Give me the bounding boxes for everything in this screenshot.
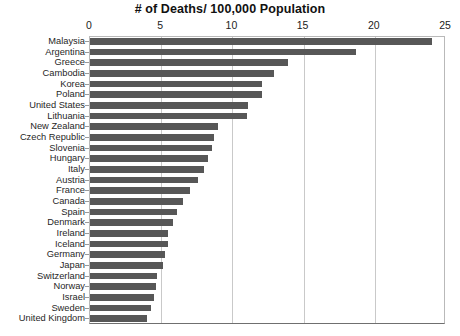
category-label-greece: Greece — [55, 57, 86, 68]
bar-row[interactable] — [90, 175, 198, 186]
bar-row[interactable] — [90, 239, 168, 250]
bar[interactable] — [90, 209, 177, 215]
category-label-france: France — [56, 185, 85, 196]
bar-row[interactable] — [90, 196, 183, 207]
category-tick-mark — [85, 244, 89, 245]
category-tick-mark — [85, 94, 89, 95]
category-tick-mark — [85, 286, 89, 287]
bar[interactable] — [90, 187, 190, 193]
category-tick-mark — [85, 308, 89, 309]
bar[interactable] — [90, 198, 183, 204]
bar-row[interactable] — [90, 292, 154, 303]
bar-row[interactable] — [90, 47, 356, 58]
category-label-ireland: Ireland — [57, 228, 85, 239]
bar[interactable] — [90, 59, 288, 65]
bar-row[interactable] — [90, 281, 156, 292]
bar[interactable] — [90, 315, 147, 321]
bar-row[interactable] — [90, 228, 168, 239]
bar-row[interactable] — [90, 249, 165, 260]
category-label-argentina: Argentina — [45, 47, 85, 58]
category-label-slovenia: Slovenia — [49, 143, 85, 154]
bar[interactable] — [90, 294, 154, 300]
category-tick-mark — [85, 233, 89, 234]
chart-title: # of Deaths/ 100,000 Population — [0, 2, 460, 16]
bar[interactable] — [90, 102, 248, 108]
category-tick-mark — [85, 158, 89, 159]
bar[interactable] — [90, 251, 165, 257]
bar[interactable] — [90, 177, 198, 183]
bar[interactable] — [90, 91, 262, 97]
bar-row[interactable] — [90, 185, 190, 196]
category-label-canada: Canada — [52, 196, 85, 207]
bar-row[interactable] — [90, 143, 212, 154]
bar-row[interactable] — [90, 100, 248, 111]
x-tick-label-10: 10 — [226, 19, 238, 31]
category-tick-mark — [85, 126, 89, 127]
category-label-switzerland: Switzerland — [37, 271, 85, 282]
bar-row[interactable] — [90, 164, 204, 175]
bar-row[interactable] — [90, 111, 247, 122]
category-tick-mark — [85, 201, 89, 202]
bar-row[interactable] — [90, 79, 262, 90]
bar-row[interactable] — [90, 89, 262, 100]
bar[interactable] — [90, 262, 163, 268]
category-tick-mark — [85, 116, 89, 117]
bar-row[interactable] — [90, 260, 163, 271]
category-tick-mark — [85, 297, 89, 298]
category-label-israel: Israel — [62, 292, 85, 303]
bar[interactable] — [90, 241, 168, 247]
bar[interactable] — [90, 283, 156, 289]
bar[interactable] — [90, 81, 262, 87]
category-tick-mark — [85, 41, 89, 42]
bar-row[interactable] — [90, 132, 214, 143]
category-tick-mark — [85, 169, 89, 170]
category-tick-mark — [85, 137, 89, 138]
category-tick-mark — [85, 148, 89, 149]
category-tick-mark — [85, 318, 89, 319]
category-label-sweden: Sweden — [51, 303, 85, 314]
bar-row[interactable] — [90, 68, 274, 79]
x-axis-tick-labels: 0510152025 — [0, 19, 460, 33]
x-tick-label-15: 15 — [297, 19, 309, 31]
bar[interactable] — [90, 166, 204, 172]
bar[interactable] — [90, 134, 214, 140]
bar-row[interactable] — [90, 207, 177, 218]
category-tick-mark — [85, 222, 89, 223]
category-tick-mark — [85, 254, 89, 255]
bar-row[interactable] — [90, 121, 218, 132]
category-label-united-kingdom: United Kingdom — [19, 313, 85, 324]
category-label-cambodia: Cambodia — [43, 68, 85, 79]
bar[interactable] — [90, 273, 157, 279]
bar[interactable] — [90, 123, 218, 129]
x-tick-label-5: 5 — [157, 19, 163, 31]
bar-row[interactable] — [90, 153, 208, 164]
bar[interactable] — [90, 70, 274, 76]
category-label-denmark: Denmark — [47, 217, 85, 228]
category-label-austria: Austria — [56, 175, 85, 186]
bar[interactable] — [90, 38, 432, 44]
bar[interactable] — [90, 49, 356, 55]
bar-row[interactable] — [90, 313, 147, 324]
bar[interactable] — [90, 155, 208, 161]
bar[interactable] — [90, 230, 168, 236]
bar[interactable] — [90, 305, 151, 311]
x-tick-label-0: 0 — [86, 19, 92, 31]
bar[interactable] — [90, 145, 212, 151]
bar[interactable] — [90, 113, 247, 119]
category-tick-mark — [85, 212, 89, 213]
category-label-lithuania: Lithuania — [47, 111, 85, 122]
bar-row[interactable] — [90, 303, 151, 314]
bar-row[interactable] — [90, 217, 173, 228]
bar-row[interactable] — [90, 271, 157, 282]
category-label-italy: Italy — [68, 164, 85, 175]
bar-row[interactable] — [90, 36, 432, 47]
category-label-iceland: Iceland — [55, 239, 85, 250]
category-tick-mark — [85, 276, 89, 277]
category-tick-mark — [85, 52, 89, 53]
category-tick-mark — [85, 265, 89, 266]
bar-row[interactable] — [90, 57, 288, 68]
category-label-germany: Germany — [47, 249, 85, 260]
category-label-united-states: United States — [29, 100, 85, 111]
category-label-norway: Norway — [53, 281, 85, 292]
bar[interactable] — [90, 219, 173, 225]
